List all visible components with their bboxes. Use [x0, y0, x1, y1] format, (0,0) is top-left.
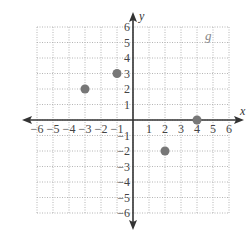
y-tick-label: −1 — [117, 129, 130, 143]
y-axis-label: y — [138, 9, 145, 23]
y-tick-label: 1 — [124, 98, 130, 112]
x-tick-label: 2 — [162, 122, 168, 136]
y-tick-label: −4 — [117, 175, 130, 189]
x-tick-label: −4 — [63, 122, 76, 136]
data-point — [161, 147, 170, 156]
x-tick-label: −2 — [95, 122, 108, 136]
y-tick-label: 5 — [124, 36, 130, 50]
y-tick-label: −5 — [117, 191, 130, 205]
x-tick-label: −3 — [79, 122, 92, 136]
y-tick-label: −6 — [117, 206, 130, 220]
data-point — [81, 85, 90, 94]
x-tick-label: 1 — [146, 122, 152, 136]
data-point — [193, 116, 202, 125]
data-points — [81, 69, 202, 156]
y-tick-label: 3 — [124, 67, 130, 81]
x-tick-label: −5 — [47, 122, 60, 136]
x-tick-label: 5 — [210, 122, 216, 136]
x-tick-label: −6 — [31, 122, 44, 136]
x-axis-label: x — [239, 104, 246, 118]
x-tick-label: 6 — [226, 122, 232, 136]
y-tick-label: 4 — [124, 51, 130, 65]
y-tick-label: 6 — [124, 20, 130, 34]
function-label: g — [205, 28, 212, 43]
y-tick-label: 2 — [124, 82, 130, 96]
y-tick-label: −3 — [117, 160, 130, 174]
y-tick-label: −2 — [117, 144, 130, 158]
x-tick-label: 3 — [178, 122, 184, 136]
coordinate-plane: −6−5−4−3−2−1123456−6−5−4−3−2−1123456 x y… — [0, 0, 251, 237]
data-point — [113, 69, 122, 78]
